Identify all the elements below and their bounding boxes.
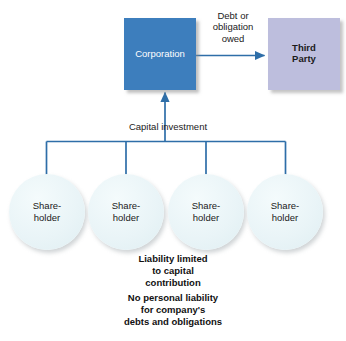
shareholder-node-2: Share- holder <box>88 174 164 250</box>
shareholder-label: Share- holder <box>33 200 62 224</box>
shareholder-label: Share- holder <box>112 200 141 224</box>
shareholder-node-4: Share- holder <box>247 174 323 250</box>
third-party-label: Third Party <box>292 43 316 65</box>
diagram-canvas: Corporation Third Party Debt or obligati… <box>0 0 346 341</box>
shareholder-node-3: Share- holder <box>168 174 244 250</box>
shareholder-bracket <box>47 131 286 177</box>
third-party-node: Third Party <box>268 18 340 90</box>
shareholder-label: Share- holder <box>271 200 300 224</box>
note-liability-limited: Liability limited to capital contributio… <box>0 253 346 289</box>
note-no-personal-liability: No personal liability for company's debt… <box>0 292 346 328</box>
capital-investment-label: Capital investment <box>96 121 240 132</box>
shareholder-label: Share- holder <box>192 200 221 224</box>
debt-edge-label: Debt or obligation owed <box>196 10 270 44</box>
shareholder-node-1: Share- holder <box>9 174 85 250</box>
corporation-label: Corporation <box>135 49 185 60</box>
corporation-node: Corporation <box>124 18 196 90</box>
